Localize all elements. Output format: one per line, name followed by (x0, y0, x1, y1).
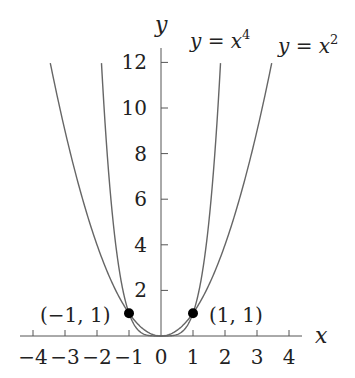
label-y-x2: y = x2 (277, 32, 338, 58)
x-tick-label: −4 (18, 345, 47, 369)
labels: (−1, 1)(1, 1)y = x4y = x2 (40, 27, 338, 327)
x-tick-label: −3 (50, 345, 79, 369)
x-axis-label: x (315, 323, 328, 348)
y-axis-label: y (154, 12, 168, 37)
y-tick-label: 8 (134, 142, 147, 166)
x-tick-label: 3 (251, 345, 264, 369)
y-tick-label: 12 (122, 50, 147, 74)
y-tick-label: 4 (134, 233, 147, 257)
point-label-neg: (−1, 1) (40, 303, 111, 327)
label-y-x4: y = x4 (189, 27, 250, 53)
x-tick-label: −1 (114, 345, 143, 369)
point-label-pos: (1, 1) (209, 303, 263, 327)
x-tick-label: −2 (82, 345, 111, 369)
y-tick-label: 2 (134, 278, 147, 302)
x-tick-label: 0 (155, 345, 168, 369)
intersection-point (124, 308, 134, 318)
y-tick-label: 10 (122, 96, 147, 120)
y-tick-label: 6 (134, 187, 147, 211)
chart-canvas: −4−3−2−10123424681012xy (−1, 1)(1, 1)y =… (0, 0, 355, 378)
x-tick-label: 2 (219, 345, 232, 369)
intersection-point (188, 308, 198, 318)
x-tick-label: 1 (187, 345, 200, 369)
x-tick-label: 4 (283, 345, 296, 369)
